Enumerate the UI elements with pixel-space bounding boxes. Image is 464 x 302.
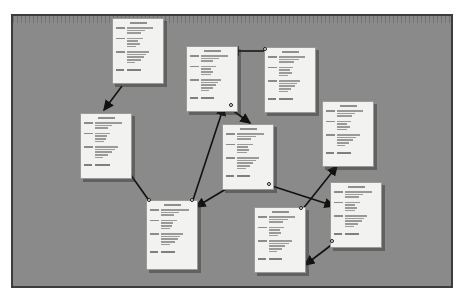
card-field-lines xyxy=(345,215,378,227)
card-text-line xyxy=(345,210,355,212)
card-text-line xyxy=(279,61,294,63)
card-text-line xyxy=(345,220,362,222)
card-text-line xyxy=(345,204,355,206)
card-body xyxy=(223,132,273,173)
card-field-group xyxy=(334,202,378,211)
card-field-lines xyxy=(127,38,160,47)
card-text-line xyxy=(337,129,347,131)
card-field-label xyxy=(226,157,235,159)
card-field-lines xyxy=(279,67,312,76)
ruler-strip xyxy=(13,16,451,23)
card-field-group xyxy=(150,209,194,216)
card-text-line xyxy=(127,46,136,48)
note-card-center[interactable] xyxy=(222,124,274,190)
card-title xyxy=(340,105,357,107)
card-text-line xyxy=(95,151,112,153)
card-text-line xyxy=(269,251,277,253)
card-footer-line xyxy=(237,175,250,177)
card-field-label xyxy=(334,191,343,193)
card-footer-line xyxy=(268,98,276,100)
card-field-group xyxy=(258,227,302,236)
card-text-line xyxy=(95,149,115,151)
note-card-bottom-right[interactable] xyxy=(330,182,382,248)
note-card-top-right[interactable] xyxy=(264,47,316,113)
card-text-line xyxy=(337,137,356,139)
card-text-line xyxy=(95,127,108,129)
card-text-line xyxy=(127,30,145,32)
card-title xyxy=(98,117,115,119)
card-text-line xyxy=(337,139,353,141)
card-field-label xyxy=(226,133,235,135)
card-text-line xyxy=(161,228,170,230)
card-body xyxy=(265,55,315,96)
connection-handle-card2-bottom[interactable] xyxy=(229,103,233,107)
note-card-bottom-center[interactable] xyxy=(254,207,306,273)
card-field-group xyxy=(268,80,312,92)
connector-card1-to-card4[interactable] xyxy=(104,86,122,110)
card-text-line xyxy=(345,202,360,204)
card-field-group xyxy=(334,215,378,227)
note-card-left[interactable] xyxy=(80,113,132,179)
connector-card5-to-card9[interactable] xyxy=(272,186,334,206)
card-field-group xyxy=(334,191,378,198)
card-field-lines xyxy=(201,55,234,62)
card-field-group xyxy=(84,133,128,142)
card-text-line xyxy=(237,160,256,162)
card-text-line xyxy=(337,142,349,144)
card-field-label xyxy=(116,38,125,40)
card-text-line xyxy=(237,152,247,154)
connection-handle-card3-left[interactable] xyxy=(263,47,267,51)
card-text-line xyxy=(345,218,364,220)
card-field-group xyxy=(150,233,194,245)
card-field-group xyxy=(190,66,234,75)
card-text-line xyxy=(337,113,355,115)
card-field-label xyxy=(334,215,343,217)
card-text-line xyxy=(237,157,259,159)
card-body xyxy=(331,190,381,231)
card-footer-line xyxy=(201,97,214,99)
diagram-canvas[interactable] xyxy=(11,14,453,288)
card-field-lines xyxy=(201,66,234,75)
card-text-line xyxy=(269,229,280,231)
note-card-right[interactable] xyxy=(322,101,374,167)
card-text-line xyxy=(161,209,189,211)
card-text-line xyxy=(269,216,295,218)
card-footer-line xyxy=(150,251,158,253)
card-text-line xyxy=(161,214,174,216)
card-text-line xyxy=(269,240,292,242)
card-field-lines xyxy=(127,27,160,34)
card-text-line xyxy=(237,133,264,135)
card-text-line xyxy=(201,74,211,76)
card-text-line xyxy=(161,236,180,238)
connection-handle-card9-bottomleft[interactable] xyxy=(330,239,334,243)
card-field-group xyxy=(150,220,194,229)
card-text-line xyxy=(201,58,219,60)
card-text-line xyxy=(127,27,153,29)
card-field-lines xyxy=(269,227,302,236)
card-text-line xyxy=(337,121,351,123)
note-card-top-left[interactable] xyxy=(112,18,164,84)
card-text-line xyxy=(127,54,146,56)
card-body xyxy=(255,215,305,256)
card-text-line xyxy=(127,40,138,42)
card-text-line xyxy=(279,59,299,61)
connection-handle-card5-bottom[interactable] xyxy=(267,182,271,186)
card-text-line xyxy=(269,227,284,229)
card-text-line xyxy=(279,72,292,74)
card-field-group xyxy=(326,110,370,117)
connection-handle-card7-topleft[interactable] xyxy=(147,198,151,202)
card-footer-line xyxy=(84,164,92,166)
connection-handle-card7-topright[interactable] xyxy=(190,198,194,202)
card-field-label xyxy=(258,227,267,229)
card-field-group xyxy=(258,216,302,223)
card-field-label xyxy=(326,110,335,112)
card-field-lines xyxy=(161,233,194,245)
card-field-label xyxy=(326,134,335,136)
card-text-line xyxy=(237,162,253,164)
card-field-label xyxy=(268,80,277,82)
connection-handle-card8-topright[interactable] xyxy=(299,206,303,210)
card-field-group xyxy=(258,240,302,252)
connector-card7-to-card2[interactable] xyxy=(192,106,224,203)
card-field-group xyxy=(84,122,128,129)
note-card-bottom-left[interactable] xyxy=(146,200,198,270)
